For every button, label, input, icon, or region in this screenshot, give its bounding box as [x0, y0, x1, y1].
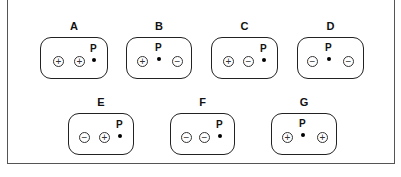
negative-charge-icon: −: [199, 132, 210, 143]
point-p-label: P: [299, 118, 306, 129]
panel-label-e: E: [91, 96, 111, 108]
negative-charge-icon: −: [172, 56, 183, 67]
point-p-dot-icon: [92, 58, 96, 62]
panel-box-a: ++P: [40, 37, 108, 79]
panel-label-b: B: [149, 20, 169, 32]
panel-box-e: −+P: [68, 113, 134, 155]
point-p-label: P: [116, 119, 123, 130]
panel-label-c: C: [235, 20, 255, 32]
point-p-dot-icon: [301, 133, 305, 137]
positive-charge-icon: +: [223, 56, 234, 67]
point-p-label: P: [260, 43, 267, 54]
positive-charge-icon: +: [74, 56, 85, 67]
positive-charge-icon: +: [53, 56, 64, 67]
negative-charge-icon: −: [79, 132, 90, 143]
panel-box-b: +−P: [126, 37, 192, 79]
point-p-dot-icon: [218, 134, 222, 138]
point-p-label: P: [90, 43, 97, 54]
panel-label-g: G: [294, 96, 314, 108]
panel-box-g: ++P: [271, 113, 337, 155]
panel-label-d: D: [321, 20, 341, 32]
point-p-label: P: [155, 42, 162, 53]
point-p-dot-icon: [118, 134, 122, 138]
panel-label-f: F: [193, 96, 213, 108]
point-p-dot-icon: [262, 58, 266, 62]
panel-label-a: A: [64, 20, 84, 32]
negative-charge-icon: −: [307, 56, 318, 67]
panel-box-f: −−P: [170, 113, 235, 155]
negative-charge-icon: −: [181, 132, 192, 143]
panel-box-c: +−P: [211, 37, 278, 79]
positive-charge-icon: +: [137, 56, 148, 67]
point-p-dot-icon: [327, 57, 331, 61]
positive-charge-icon: +: [99, 132, 110, 143]
point-p-label: P: [216, 119, 223, 130]
negative-charge-icon: −: [243, 56, 254, 67]
positive-charge-icon: +: [282, 132, 293, 143]
point-p-label: P: [325, 42, 332, 53]
panel-box-d: −−P: [297, 37, 364, 79]
negative-charge-icon: −: [343, 56, 354, 67]
point-p-dot-icon: [157, 57, 161, 61]
positive-charge-icon: +: [317, 132, 328, 143]
